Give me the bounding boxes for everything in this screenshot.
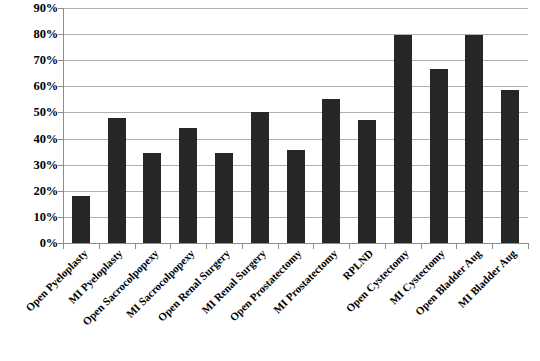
bar <box>108 118 126 243</box>
bar <box>251 112 269 243</box>
y-axis-line <box>63 8 64 244</box>
y-axis-tick-label: 80% <box>0 28 58 41</box>
y-axis-tick-label: 70% <box>0 54 58 67</box>
x-axis-category-label: RPLND <box>340 247 375 282</box>
bar <box>72 196 90 243</box>
y-axis-tick-label: 10% <box>0 211 58 224</box>
x-axis-category-labels: Open PyeloplastyMI PyeloplastyOpen Sacro… <box>0 243 540 361</box>
bar <box>394 35 412 243</box>
y-axis-tick-label: 20% <box>0 185 58 198</box>
y-axis-tick-label: 60% <box>0 80 58 93</box>
y-axis-tick-label: 90% <box>0 2 58 15</box>
x-axis-category-label: Open Cystectomy <box>344 247 411 314</box>
y-axis-tick-label: 40% <box>0 132 58 145</box>
x-axis-category-label: MI Prostatectomy <box>271 247 340 316</box>
bars-layer <box>63 8 528 243</box>
bar <box>215 153 233 243</box>
plot-area <box>63 8 528 243</box>
bar <box>179 128 197 243</box>
x-axis-category-label: Open Pyeloplasty <box>23 247 90 314</box>
bar <box>358 120 376 243</box>
bar <box>322 99 340 243</box>
bar <box>501 90 519 243</box>
y-axis-tick-label: 50% <box>0 106 58 119</box>
x-axis-category-label: MI Renal Surgery <box>199 247 268 316</box>
y-axis-tick-labels: 90%80%70%60%50%40%30%20%10%0% <box>0 0 58 251</box>
bar <box>465 35 483 243</box>
x-axis-category-label: Open Bladder Aug <box>412 247 483 318</box>
bar <box>430 69 448 243</box>
y-axis-tick-label: 30% <box>0 158 58 171</box>
bar-chart: 90%80%70%60%50%40%30%20%10%0% Open Pyelo… <box>0 0 540 361</box>
bar <box>287 150 305 243</box>
bar <box>143 153 161 243</box>
